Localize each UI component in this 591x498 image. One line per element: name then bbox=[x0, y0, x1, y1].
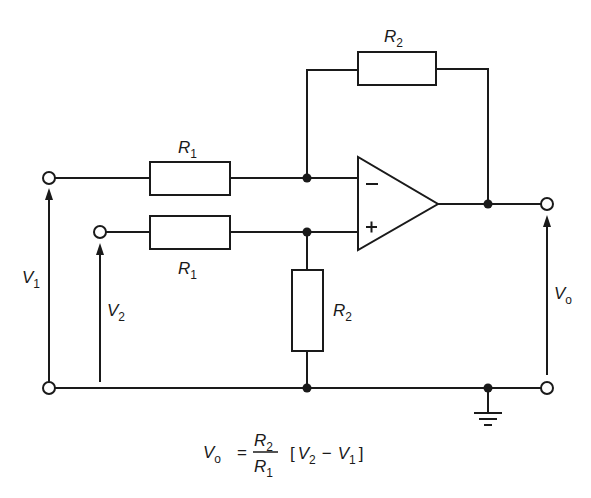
junction-output bbox=[484, 200, 493, 209]
formula-numerator: R2 bbox=[254, 431, 273, 454]
resistor-r2-feedback bbox=[358, 52, 436, 85]
junction-noninverting bbox=[303, 228, 312, 237]
label-r2-feedback: R2 bbox=[384, 27, 403, 50]
junction-ground bbox=[484, 384, 493, 393]
common-rail bbox=[43, 382, 553, 394]
arrow-v1-head-icon bbox=[45, 188, 53, 200]
junction-inverting bbox=[303, 174, 312, 183]
resistor-r1-top bbox=[150, 162, 230, 195]
terminal-vo-output bbox=[541, 198, 553, 210]
terminal-v2-input bbox=[94, 226, 106, 238]
label-r1-top: R1 bbox=[178, 138, 197, 161]
terminal-common-right bbox=[541, 382, 553, 394]
label-r2-ground: R2 bbox=[333, 301, 352, 324]
circuit-diagram: R2 R1 R1 R2 V1 V2 Vo Vo = R2 R1 [V2−V1] bbox=[0, 0, 591, 498]
formula-equals: = bbox=[237, 443, 247, 462]
terminal-v1-input bbox=[43, 172, 55, 184]
feedback-wire-left bbox=[307, 70, 358, 178]
formula-bracket-expression: [V2−V1] bbox=[290, 444, 363, 467]
label-r1-bottom: R1 bbox=[178, 259, 197, 282]
label-vo: Vo bbox=[554, 284, 572, 307]
ground-icon bbox=[474, 388, 502, 425]
label-v2: V2 bbox=[107, 301, 125, 324]
terminal-common-left bbox=[43, 382, 55, 394]
opamp-triangle bbox=[358, 157, 438, 250]
formula-lhs: Vo bbox=[203, 443, 221, 466]
arrow-v2-head-icon bbox=[96, 243, 104, 255]
input-path-v2 bbox=[94, 216, 358, 249]
arrow-vo-head-icon bbox=[543, 215, 551, 227]
label-v1: V1 bbox=[22, 268, 40, 291]
opamp bbox=[358, 157, 438, 250]
resistor-r1-bottom bbox=[150, 216, 230, 249]
ground-resistor-path bbox=[292, 232, 323, 388]
transfer-formula: Vo = R2 R1 [V2−V1] bbox=[203, 431, 363, 480]
junction-ground-resistor bbox=[303, 384, 312, 393]
output-path bbox=[438, 198, 553, 210]
resistor-r2-ground bbox=[292, 270, 323, 351]
formula-denominator: R1 bbox=[254, 457, 273, 480]
feedback-wire-right bbox=[436, 69, 488, 204]
